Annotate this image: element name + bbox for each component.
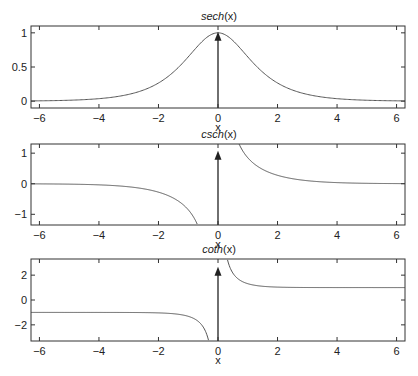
curve-csch bbox=[31, 184, 197, 224]
x-tick-label: 4 bbox=[334, 229, 340, 241]
x-tick-label: 4 bbox=[334, 345, 340, 357]
panel-sech: sech(x)−6−4−20246x00.51 bbox=[12, 10, 405, 133]
x-tick-label: −6 bbox=[33, 112, 46, 124]
x-tick-label: −4 bbox=[93, 229, 106, 241]
x-tick-label: −4 bbox=[93, 112, 106, 124]
x-tick-label: 6 bbox=[394, 112, 400, 124]
y-tick-label: 0 bbox=[21, 178, 27, 190]
y-tick-label: 0 bbox=[21, 294, 27, 306]
arrow-up-icon bbox=[215, 267, 222, 276]
y-tick-label: 1 bbox=[21, 147, 27, 159]
x-tick-label: −6 bbox=[33, 345, 46, 357]
x-tick-label: −2 bbox=[152, 112, 165, 124]
x-tick-label: −6 bbox=[33, 229, 46, 241]
x-tick-label: 6 bbox=[394, 229, 400, 241]
panel-coth: coth(x)−6−4−20246x−202 bbox=[14, 243, 405, 366]
x-tick-label: −2 bbox=[152, 345, 165, 357]
chart-title: coth(x) bbox=[202, 243, 236, 255]
y-tick-label: −1 bbox=[14, 208, 27, 220]
figure: sech(x)−6−4−20246x00.51 csch(x)−6−4−2024… bbox=[0, 0, 418, 376]
arrow-up-icon bbox=[215, 151, 222, 160]
panel-csch: csch(x)−6−4−20246x−101 bbox=[14, 128, 405, 250]
y-tick-label: 1 bbox=[21, 27, 27, 39]
curve-csch bbox=[239, 143, 405, 183]
x-tick-label: 6 bbox=[394, 345, 400, 357]
chart-title: sech(x) bbox=[201, 10, 237, 22]
y-tick-label: 0 bbox=[21, 95, 27, 107]
x-tick-label: 2 bbox=[274, 112, 280, 124]
x-tick-label: −4 bbox=[93, 345, 106, 357]
x-tick-label: 2 bbox=[274, 345, 280, 357]
x-tick-label: 4 bbox=[334, 112, 340, 124]
x-axis-label: x bbox=[215, 354, 221, 366]
x-tick-label: −2 bbox=[152, 229, 165, 241]
curve-coth bbox=[228, 260, 405, 288]
y-tick-label: 0.5 bbox=[12, 61, 27, 73]
y-tick-label: 2 bbox=[21, 269, 27, 281]
chart-title: csch(x) bbox=[201, 128, 236, 140]
curve-coth bbox=[31, 312, 208, 340]
y-tick-label: −2 bbox=[14, 319, 27, 331]
x-tick-label: 2 bbox=[274, 229, 280, 241]
